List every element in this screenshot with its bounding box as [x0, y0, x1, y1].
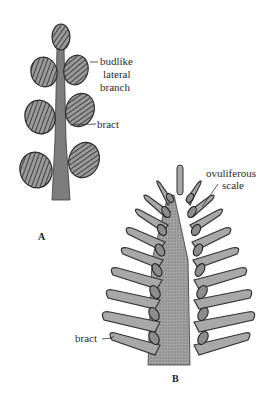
lateral-bud — [64, 138, 105, 182]
ovule — [185, 192, 195, 204]
lateral-bud — [16, 148, 56, 191]
leader-ovuliferous — [202, 184, 218, 207]
label-ovuliferous-line2: scale — [222, 180, 244, 191]
label-ovuliferous-line1: ovuliferous — [206, 168, 256, 179]
panel-letter-b: B — [172, 373, 179, 384]
label-budlike-line2: lateral — [103, 69, 130, 80]
panel-b-cone — [102, 165, 255, 365]
label-bract-a: bract — [97, 119, 119, 130]
terminal-bud — [52, 24, 70, 50]
lateral-bud — [61, 52, 92, 87]
lateral-bud — [28, 54, 61, 90]
label-bract-b: bract — [75, 333, 97, 344]
diagram-canvas — [0, 0, 271, 397]
cone-tip — [177, 165, 183, 195]
panel-letter-a: A — [38, 231, 45, 242]
panel-a-shoot — [16, 24, 104, 200]
label-budlike-line1: budlike — [100, 56, 133, 67]
lateral-bud — [21, 97, 59, 138]
label-budlike-line3: branch — [100, 82, 130, 93]
